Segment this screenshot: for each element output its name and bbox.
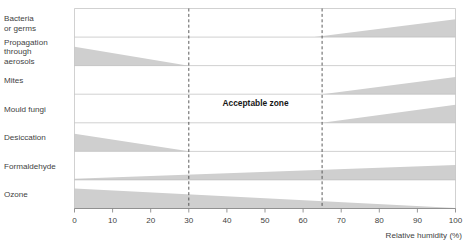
svg-text:Desiccation: Desiccation (4, 133, 46, 142)
svg-text:aerosols: aerosols (4, 57, 35, 66)
x-tick-label-0: 0 (72, 216, 77, 225)
band-ozone (75, 189, 456, 209)
x-tick-labels: 0102030405060708090100 (72, 216, 463, 225)
category-label-propagation-through-aerosols: Propagationthroughaerosols (4, 38, 48, 66)
svg-text:Formaldehyde: Formaldehyde (4, 162, 56, 171)
category-label-desiccation: Desiccation (4, 133, 46, 142)
humidity-comfort-chart: 0102030405060708090100 Bacteriaor germsP… (0, 0, 469, 248)
svg-text:Mould fungi: Mould fungi (4, 105, 46, 114)
category-label-formaldehyde: Formaldehyde (4, 162, 56, 171)
x-tick-label-20: 20 (146, 216, 156, 225)
band-mould-fungi (322, 105, 455, 123)
x-axis-title: Relative humidity (%) (386, 231, 463, 240)
x-tick-label-70: 70 (337, 216, 347, 225)
band-desiccation (75, 134, 189, 152)
x-tick-label-80: 80 (375, 216, 385, 225)
svg-text:Propagation: Propagation (4, 38, 48, 47)
x-tick-label-60: 60 (299, 216, 309, 225)
category-label-mould-fungi: Mould fungi (4, 105, 46, 114)
svg-text:Bacteria: Bacteria (4, 14, 34, 23)
band-formaldehyde (75, 165, 456, 180)
svg-text:Mites: Mites (4, 76, 23, 85)
category-label-bacteria-or-germs: Bacteriaor germs (4, 14, 36, 32)
x-tick-label-50: 50 (260, 216, 270, 225)
x-tick-label-30: 30 (184, 216, 194, 225)
annotations-layer: Acceptable zone (222, 98, 288, 108)
acceptable-zone-label: Acceptable zone (222, 98, 288, 108)
x-tick-label-90: 90 (413, 216, 423, 225)
band-bacteria-or-germs (315, 19, 456, 37)
category-labels: Bacteriaor germsPropagationthroughaeroso… (4, 14, 56, 199)
category-label-mites: Mites (4, 76, 23, 85)
x-tick-label-10: 10 (108, 216, 118, 225)
category-label-ozone: Ozone (4, 190, 28, 199)
axis-layer (75, 209, 456, 213)
svg-text:Ozone: Ozone (4, 190, 28, 199)
x-tick-label-100: 100 (449, 216, 463, 225)
band-mites (322, 77, 455, 94)
band-propagation-through-aerosols (75, 47, 189, 66)
x-tick-label-40: 40 (222, 216, 232, 225)
svg-text:through: through (4, 47, 31, 56)
svg-text:or germs: or germs (4, 24, 36, 33)
chart-canvas: 0102030405060708090100 Bacteriaor germsP… (0, 0, 469, 248)
